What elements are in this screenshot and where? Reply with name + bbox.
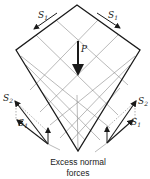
caption-line-2: forces — [66, 168, 89, 178]
label-s2-right: S2 — [138, 96, 148, 107]
label-s2-left: S2 — [3, 93, 13, 104]
shell-force-diagram: S1 S1 P S2 S1 S2 S1 Excess normal forces — [0, 0, 150, 179]
label-s1-top-left: S1 — [38, 10, 48, 21]
kite-shell-outline — [16, 5, 140, 151]
label-p: P — [80, 44, 88, 54]
label-s1-right: S1 — [131, 117, 141, 128]
label-s1-top-right: S1 — [108, 10, 118, 21]
label-s1-left: S1 — [18, 118, 28, 129]
caption-line-1: Excess normal — [50, 157, 106, 167]
